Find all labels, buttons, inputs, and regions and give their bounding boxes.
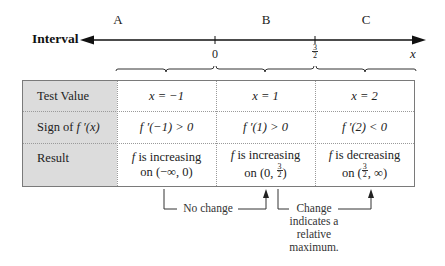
sign-b: f ′(1) > 0: [216, 111, 315, 143]
interval-braces: [116, 66, 416, 72]
test-value-b: x = 1: [216, 81, 315, 111]
axis-variable-label: x: [410, 46, 416, 62]
sign-chart-table: Test Value Sign of f ′(x) Result x = −1 …: [22, 80, 415, 187]
row-header-sign: Sign of f ′(x): [23, 111, 117, 143]
up-arrow-icon: [368, 189, 374, 198]
row-header-result: Result: [23, 143, 117, 186]
result-b: f is increasing on (0, 32): [216, 143, 315, 186]
result-c: f is decreasing on (32, ∞): [315, 143, 414, 186]
row-header-test-value: Test Value: [23, 81, 117, 111]
test-value-a: x = −1: [117, 81, 216, 111]
left-arrow-icon: [80, 36, 94, 45]
sign-c: f ′(2) < 0: [315, 111, 414, 143]
sign-a: f ′(−1) > 0: [117, 111, 216, 143]
right-arrow-icon: [412, 36, 426, 45]
tick-label-zero: 0: [212, 47, 218, 62]
test-value-c: x = 2: [315, 81, 414, 111]
up-arrow-icon: [263, 189, 269, 198]
tick-label-three-halves: 32: [312, 44, 318, 62]
change-note: Change indicates a relative maximum.: [284, 202, 344, 254]
no-change-note: No change: [178, 202, 238, 215]
result-a: f is increasing on (−∞, 0): [117, 143, 216, 186]
